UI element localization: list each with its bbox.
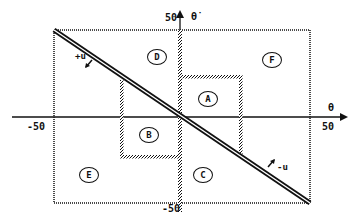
region-b: B [139, 127, 159, 143]
region-c: C [193, 167, 213, 183]
y-min-label: -50 [162, 204, 180, 214]
diagram-graphics [0, 0, 355, 221]
region-e: E [79, 167, 99, 183]
x-axis-arrow-icon [340, 113, 348, 121]
x-axis-label: θ [328, 103, 334, 113]
y-max-label: 50 [165, 13, 177, 23]
minus-u-label: -u [277, 163, 288, 172]
region-f: F [262, 52, 282, 68]
region-d: D [147, 49, 167, 65]
minus-u-arrow-icon [268, 159, 275, 167]
region-a: A [198, 91, 218, 107]
y-axis-arrow-icon [176, 10, 184, 18]
y-axis-hatched [178, 30, 182, 212]
phase-plane-diagram: 50 θ̇ -50 -50 50 θ +u -u D F A B E C [0, 0, 355, 221]
plus-u-arrow-icon [85, 60, 92, 68]
x-min-label: -50 [27, 122, 45, 132]
y-axis-label: θ̇ [191, 12, 197, 22]
x-max-label: 50 [322, 122, 334, 132]
plus-u-label: +u [75, 52, 86, 61]
